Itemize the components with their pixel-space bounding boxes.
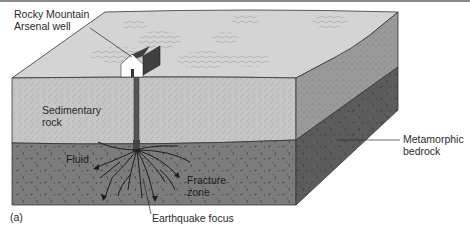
fracture-zone-label: Fracture zone (187, 174, 226, 198)
well-pipe (134, 74, 139, 144)
bedrock-label-line2: bedrock (403, 145, 464, 157)
sedimentary-label: Sedimentary rock (42, 104, 101, 128)
sedimentary-label-line1: Sedimentary (42, 104, 101, 116)
well-label-line1: Rocky Mountain (14, 8, 89, 20)
bedrock-label: Metamorphic bedrock (403, 133, 464, 157)
panel-label: (a) (10, 211, 23, 223)
fracture-label-line1: Fracture (187, 174, 226, 186)
fracture-label-line2: zone (187, 186, 226, 198)
sedimentary-label-line2: rock (42, 116, 101, 128)
well-label-line2: Arsenal well (14, 20, 89, 32)
earthquake-focus-label: Earthquake focus (152, 212, 234, 224)
bedrock-label-line1: Metamorphic (403, 133, 464, 145)
well-label: Rocky Mountain Arsenal well (14, 8, 89, 32)
fluid-label: Fluid (66, 153, 89, 165)
